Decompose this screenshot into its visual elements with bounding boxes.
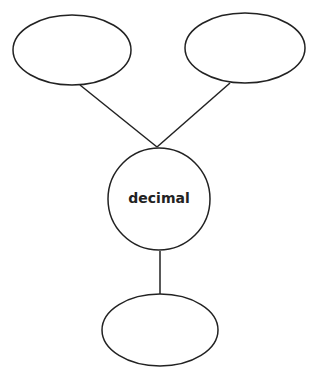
edge-top-right-center [157,83,230,147]
node-bottom [102,294,218,366]
node-top-left [13,15,131,85]
center-node-label: decimal [107,190,211,206]
edge-top-left-center [80,85,157,147]
node-top-right [185,13,305,83]
